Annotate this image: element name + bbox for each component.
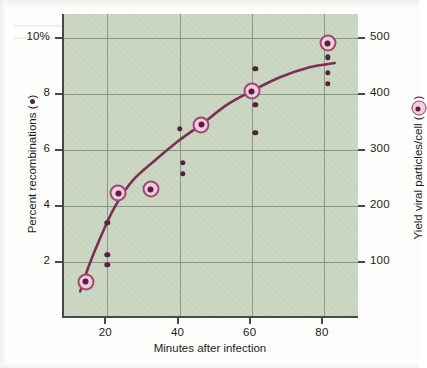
fitted-curve [64, 14, 358, 318]
scan-edge-bottom [0, 363, 419, 368]
legend-circled-dot-icon [412, 100, 427, 115]
data-point-marker [193, 116, 210, 133]
y-axis-right-tick-label: 100 [370, 254, 410, 266]
x-axis-tick [321, 318, 323, 324]
y-axis-left-tick-label: 10% [8, 30, 50, 42]
y-axis-right-tick-label: 200 [370, 198, 410, 210]
y-axis-left-tick [55, 37, 62, 39]
x-axis-tick-label: 80 [307, 326, 337, 338]
data-point-marker [110, 185, 127, 202]
y-axis-right-tick-label: 400 [370, 86, 410, 98]
x-axis-tick-label: 60 [235, 326, 265, 338]
x-axis-tick [104, 318, 106, 324]
scan-edge-left [0, 0, 7, 368]
y-axis-right-tick [358, 261, 365, 263]
data-point-marker [77, 273, 94, 290]
legend-dot-icon [30, 100, 35, 105]
y-axis-left-tick-label: 6 [8, 142, 50, 154]
y-axis-right-tick [358, 37, 365, 39]
y-axis-right-tick-label: 300 [370, 142, 410, 154]
y-axis-right-title-suffix: ) [412, 96, 424, 100]
x-axis-tick-label: 40 [163, 326, 193, 338]
x-axis-title: Minutes after infection [62, 342, 358, 354]
data-point-marker [243, 83, 260, 100]
y-axis-right-tick [358, 205, 365, 207]
y-axis-right-tick-label: 500 [370, 30, 410, 42]
x-axis-tick [177, 318, 179, 324]
data-point-marker [319, 35, 336, 52]
plot-area [62, 14, 358, 318]
y-axis-left-tick [55, 149, 62, 151]
y-axis-right-title: Yield viral particles/cell () [412, 53, 427, 283]
scan-edge-top [0, 0, 419, 6]
y-axis-left-tick [55, 205, 62, 207]
y-axis-left-tick [55, 93, 62, 95]
y-axis-right-title-prefix: Yield viral particles/cell ( [412, 116, 424, 239]
y-axis-right-tick [358, 149, 365, 151]
y-axis-right-tick [358, 93, 365, 95]
data-point-marker [142, 181, 159, 198]
y-axis-left-tick-label: 8 [8, 86, 50, 98]
y-axis-left-tick [55, 261, 62, 263]
x-axis-tick [249, 318, 251, 324]
x-axis-tick-label: 20 [90, 326, 120, 338]
y-axis-left-tick-label: 2 [8, 254, 50, 266]
y-axis-left-title-prefix: Percent recombinations ( [26, 106, 38, 234]
y-axis-left-tick-label: 4 [8, 198, 50, 210]
